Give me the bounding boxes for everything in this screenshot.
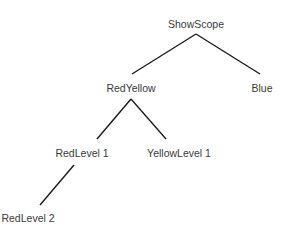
node-redyellow: RedYellow [106,82,155,94]
edge-redlevel1-redlevel2 [40,165,74,205]
node-redlevel1: RedLevel 1 [55,147,108,159]
node-blue: Blue [251,82,272,94]
node-redlevel2: RedLevel 2 [1,212,54,224]
node-showscope: ShowScope [168,18,224,30]
edge-redyellow-redlevel1 [97,99,131,139]
edge-showscope-redyellow [132,34,196,74]
edge-redyellow-yellowlevel1 [131,99,166,139]
tree-edges [0,0,287,231]
tree-diagram: ShowScope RedYellow Blue RedLevel 1 Yell… [0,0,287,231]
edge-showscope-blue [196,34,260,74]
node-yellowlevel1: YellowLevel 1 [147,147,211,159]
